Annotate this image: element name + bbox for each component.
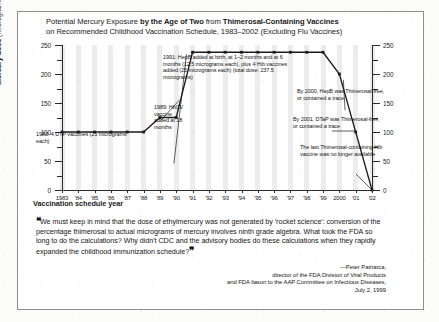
x-tick (78, 190, 79, 193)
y-axis-tick-label: 150 (29, 100, 51, 107)
y-axis-title-bold: Mercury dose (0, 39, 3, 85)
x-tick (225, 190, 226, 193)
annotation-2000: By 2000, HepB was Thimerosal-free, or co… (297, 88, 389, 101)
x-tick (127, 190, 128, 193)
y-minor-tick (57, 60, 62, 61)
y-minor-tick (373, 60, 378, 61)
y-axis-tick-label: 0 (29, 187, 51, 194)
x-tick (95, 190, 96, 193)
y-major-tick (373, 190, 380, 191)
y-axis-tick-label: 200 (29, 71, 51, 78)
pull-quote: ❝We must keep in mind that the dose of e… (36, 216, 386, 256)
chart-title: Potential Mercury Exposure by the Age of… (46, 17, 396, 36)
title-line1-part2: from (204, 17, 223, 26)
annotation-last-hib: The last Thimerosal-containing Hib vacci… (300, 144, 392, 157)
y-minor-tick (57, 118, 62, 119)
x-tick (193, 190, 194, 193)
y-major-tick (55, 74, 62, 75)
attribution-name: —Peter Patriarca, (120, 264, 386, 272)
attribution-date: July 2, 1999 (120, 287, 386, 295)
series-marker (354, 131, 357, 134)
title-line1-emphasis2: Thimerosal-Containing Vaccines (223, 17, 339, 26)
x-tick (323, 190, 324, 193)
y-major-tick (55, 45, 62, 46)
y-axis-tick-label-right: 0 (383, 187, 405, 194)
x-tick (356, 190, 357, 193)
y-axis-tick-label-right: 50 (383, 158, 405, 165)
y-axis-left-rail (62, 45, 63, 191)
x-axis-tick-label: '02 (361, 195, 383, 201)
quote-attribution: —Peter Patriarca, director of the FDA Di… (120, 264, 386, 294)
title-line1-part1: Potential Mercury Exposure (46, 17, 140, 26)
y-axis-tick-label-right: 200 (383, 71, 405, 78)
attribution-role: director of the FDA Division of Viral Pr… (120, 272, 386, 280)
y-axis-tick-label: 50 (29, 158, 51, 165)
x-tick (160, 190, 161, 193)
x-tick (307, 190, 308, 193)
series-marker (305, 51, 308, 54)
y-major-tick (373, 161, 380, 162)
attribution-role2: and FDA liason to the AAP Committee on I… (120, 279, 386, 287)
x-tick (274, 190, 275, 193)
annotation-2001: By 2001, DTaP was Thimerosal-free, or co… (293, 116, 385, 129)
y-major-tick (55, 190, 62, 191)
y-minor-tick (373, 176, 378, 177)
x-tick (111, 190, 112, 193)
x-tick (372, 190, 373, 193)
y-axis-tick-label: 250 (29, 42, 51, 49)
x-tick (290, 190, 291, 193)
y-minor-tick (57, 176, 62, 177)
y-minor-tick (57, 89, 62, 90)
y-major-tick (373, 74, 380, 75)
y-major-tick (373, 45, 380, 46)
y-axis-title-unit: (micrograms) (0, 0, 3, 39)
x-tick (258, 190, 259, 193)
annotation-1989: 1989: HbCV vaccine added at 18 months (154, 104, 184, 130)
x-tick (176, 190, 177, 193)
x-tick (339, 190, 340, 193)
y-axis-tick-label-right: 250 (383, 42, 405, 49)
series-marker (142, 131, 145, 134)
y-minor-tick (57, 147, 62, 148)
x-axis-rail (62, 190, 373, 191)
y-axis-tick-label-right: 100 (383, 129, 405, 136)
quote-text: We must keep in mind that the dose of et… (36, 217, 380, 256)
title-line2: on Recommended Childhood Vaccination Sch… (46, 27, 342, 36)
x-tick (242, 190, 243, 193)
y-axis-title: Mercury dose (micrograms) (0, 0, 3, 85)
x-tick (144, 190, 145, 193)
annotation-1991: 1991: HepB added at birth, at 1–2 months… (163, 54, 291, 80)
title-line1-emphasis1: by the Age of Two (140, 17, 204, 26)
series-marker (338, 73, 341, 76)
x-tick (209, 190, 210, 193)
x-tick (62, 190, 63, 193)
y-major-tick (373, 132, 380, 133)
series-marker (322, 51, 325, 54)
quote-close-mark: ❞ (189, 245, 193, 256)
y-major-tick (55, 161, 62, 162)
annotation-1983: 1983: 4 DTP vaccines (25 micrograms each… (36, 131, 131, 144)
y-major-tick (55, 103, 62, 104)
y-major-tick (373, 103, 380, 104)
